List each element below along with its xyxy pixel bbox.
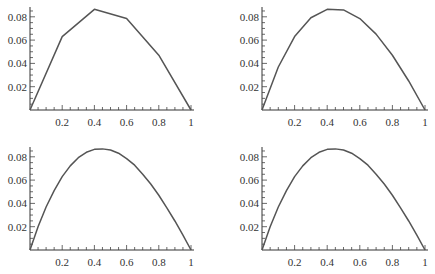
x-tick-label: 0.4	[320, 256, 334, 268]
x-tick-label: 0.8	[386, 116, 400, 128]
data-line	[30, 149, 191, 250]
x-tick-label: 0.6	[120, 256, 134, 268]
y-tick-label: 0.02	[8, 81, 27, 93]
x-tick-label: 0.4	[88, 116, 102, 128]
y-tick-label: 0.08	[240, 11, 260, 23]
x-tick-label: 1	[188, 256, 194, 268]
x-tick-label: 0.2	[288, 116, 302, 128]
x-tick-label: 0.4	[320, 116, 334, 128]
y-tick-label: 0.02	[240, 81, 259, 93]
y-tick-label: 0.08	[8, 11, 28, 23]
y-tick-label: 0.02	[240, 221, 259, 233]
chart-panel-top-right: 0.20.40.60.810.020.040.060.08	[240, 7, 428, 128]
x-tick-label: 0.4	[88, 256, 102, 268]
chart-panel-bottom-right: 0.20.40.60.810.020.040.060.08	[240, 147, 428, 268]
data-line	[30, 9, 191, 110]
y-tick-label: 0.06	[8, 34, 28, 46]
x-tick-label: 0.8	[386, 256, 400, 268]
chart-panel-bottom-left: 0.20.40.60.810.020.040.060.08	[8, 147, 194, 268]
y-tick-label: 0.04	[240, 197, 260, 209]
x-tick-label: 0.8	[152, 256, 166, 268]
y-tick-label: 0.04	[8, 197, 28, 209]
x-tick-label: 0.2	[288, 256, 302, 268]
chart-panel-top-left: 0.20.40.60.810.020.040.060.08	[8, 7, 194, 128]
x-tick-label: 0.6	[353, 116, 367, 128]
data-line	[262, 149, 425, 250]
y-tick-label: 0.06	[240, 34, 260, 46]
data-line	[262, 9, 425, 110]
x-tick-label: 0.6	[120, 116, 134, 128]
x-tick-label: 0.6	[353, 256, 367, 268]
y-tick-label: 0.06	[240, 174, 260, 186]
x-tick-label: 0.2	[55, 256, 69, 268]
x-tick-label: 1	[188, 116, 194, 128]
x-tick-label: 0.2	[55, 116, 69, 128]
y-tick-label: 0.04	[240, 57, 260, 69]
x-tick-label: 1	[422, 256, 428, 268]
y-tick-label: 0.04	[8, 57, 28, 69]
chart-grid: 0.20.40.60.810.020.040.060.080.20.40.60.…	[0, 0, 435, 274]
y-tick-label: 0.08	[8, 151, 28, 163]
y-tick-label: 0.08	[240, 151, 260, 163]
x-tick-label: 0.8	[152, 116, 166, 128]
y-tick-label: 0.02	[8, 221, 27, 233]
x-tick-label: 1	[422, 116, 428, 128]
y-tick-label: 0.06	[8, 174, 28, 186]
